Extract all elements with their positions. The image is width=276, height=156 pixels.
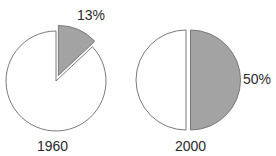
pie-1960: 13% 1960 — [6, 7, 106, 154]
pie-2000-year-label: 2000 — [175, 138, 206, 154]
pie-1960-percent-label: 13% — [77, 7, 105, 23]
pie-2000-highlight-slice — [191, 30, 241, 130]
chart-canvas: 13% 1960 50% 2000 — [0, 0, 276, 156]
pie-2000-other-slice — [136, 30, 186, 130]
pie-2000-percent-label: 50% — [243, 71, 271, 87]
pie-chart-comparison: 13% 1960 50% 2000 — [0, 0, 276, 156]
pie-1960-year-label: 1960 — [37, 138, 68, 154]
pie-2000: 50% 2000 — [136, 30, 271, 154]
pie-1960-other-slice — [6, 31, 106, 131]
